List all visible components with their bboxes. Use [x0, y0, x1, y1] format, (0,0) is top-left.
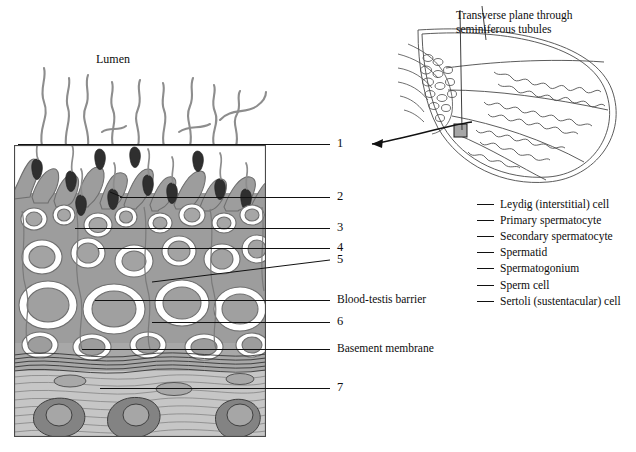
- leader-line-blood-testis-barrier: [95, 300, 330, 301]
- testis-inset-diagram: [398, 28, 636, 188]
- inset-title: Transverse plane through seminiferous tu…: [456, 9, 572, 36]
- leader-line-4: [98, 248, 330, 249]
- leader-line-basement-membrane: [82, 349, 330, 350]
- callout-label-6: 6: [337, 315, 343, 328]
- legend-blank-line-icon[interactable]: [477, 268, 494, 269]
- lumen-label: Lumen: [96, 52, 130, 67]
- legend-item-sperm-cell[interactable]: Sperm cell: [477, 277, 636, 293]
- callout-label-basement-membrane: Basement membrane: [337, 342, 434, 355]
- leader-line-5: [152, 252, 334, 288]
- legend: Leydig (interstitial) cell Primary sperm…: [477, 196, 636, 309]
- callout-label-blood-testis-barrier: Blood-testis barrier: [337, 293, 426, 306]
- legend-item-spermatid[interactable]: Spermatid: [477, 245, 636, 261]
- leader-line-7: [100, 388, 330, 389]
- legend-blank-line-icon[interactable]: [477, 252, 494, 253]
- legend-blank-line-icon[interactable]: [477, 285, 494, 286]
- figure-canvas: Lumen: [0, 0, 636, 452]
- legend-item-secondary-spermatocyte[interactable]: Secondary spermatocyte: [477, 228, 636, 244]
- callout-label-3: 3: [337, 221, 343, 234]
- legend-item-primary-spermatocyte[interactable]: Primary spermatocyte: [477, 212, 636, 228]
- lumen-region: [14, 62, 266, 146]
- legend-item-sertoli-sustentacular-cell[interactable]: Sertoli (sustentacular) cell: [477, 293, 636, 309]
- callout-label-2: 2: [337, 190, 343, 203]
- callout-label-1: 1: [337, 137, 343, 150]
- legend-item-label: Spermatogonium: [500, 262, 579, 275]
- legend-item-spermatogonium[interactable]: Spermatogonium: [477, 261, 636, 277]
- legend-blank-line-icon[interactable]: [477, 301, 494, 302]
- magnification-arrow: [356, 110, 476, 160]
- leader-line-2-oblique: [110, 170, 240, 210]
- leader-line-3: [75, 228, 330, 229]
- legend-blank-line-icon[interactable]: [477, 236, 494, 237]
- legend-blank-line-icon[interactable]: [477, 220, 494, 221]
- legend-item-label: Primary spermatocyte: [500, 214, 601, 227]
- legend-item-label: Leydig (interstitial) cell: [500, 198, 609, 211]
- callout-label-7: 7: [337, 381, 343, 394]
- legend-blank-line-icon[interactable]: [477, 204, 494, 205]
- leader-line-6: [152, 322, 330, 323]
- legend-item-label: Sperm cell: [500, 279, 550, 292]
- legend-item-leydig-interstitial-cell[interactable]: Leydig (interstitial) cell: [477, 196, 636, 212]
- legend-item-label: Sertoli (sustentacular) cell: [500, 295, 621, 308]
- leader-line-1: [18, 144, 330, 145]
- legend-item-label: Secondary spermatocyte: [500, 230, 613, 243]
- callout-label-5: 5: [337, 253, 343, 266]
- legend-item-label: Spermatid: [500, 246, 547, 259]
